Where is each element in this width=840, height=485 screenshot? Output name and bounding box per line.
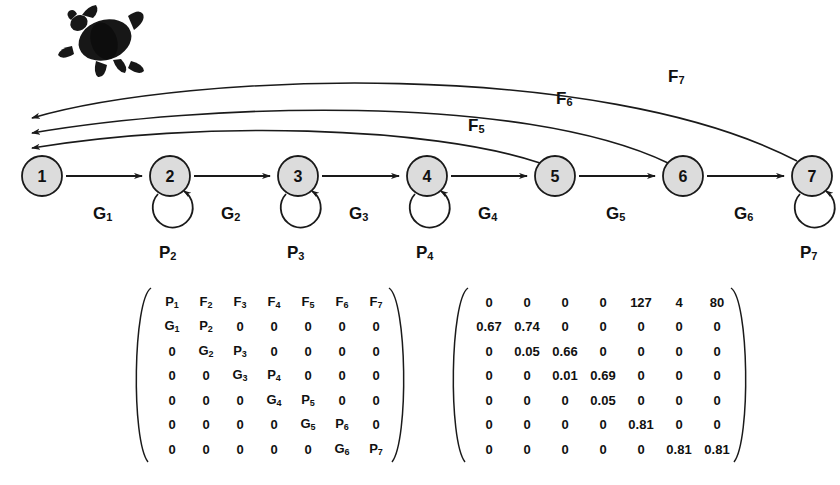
matrix-cell-r7-c5: 0: [622, 443, 660, 456]
matrix-cell-r3-c6: 0: [660, 345, 698, 358]
matrix-cell-r4-c4: 0.69: [584, 369, 622, 382]
matrix-cell-r7-c1: 0: [470, 443, 508, 456]
matrix-cell-r6-c1: 0: [155, 418, 189, 431]
growth-label-g3: G3: [349, 204, 368, 224]
matrix-cell-r1-c7: 80: [698, 296, 736, 309]
matrix-cell-r3-c2: 0.05: [508, 345, 546, 358]
matrix-cell-r6-c4: 0: [257, 418, 291, 431]
matrix-cell-r2-c5: 0: [291, 320, 325, 333]
matrix-cell-r3-c7: 0: [698, 345, 736, 358]
matrix-cell-r1-c1: P1: [155, 295, 189, 310]
matrix-cell-r3-c5: 0: [291, 345, 325, 358]
matrix-cell-r4-c4: P4: [257, 368, 291, 383]
matrix-cell-r2-c7: 0: [698, 320, 736, 333]
growth-label-g1: G1: [93, 204, 112, 224]
matrix-cell-r7-c3: 0: [546, 443, 584, 456]
matrix-cell-r6-c3: 0: [546, 418, 584, 431]
matrix-cell-r2-c6: 0: [660, 320, 698, 333]
growth-label-g6: G6: [734, 204, 753, 224]
matrix-cell-r6-c2: 0: [508, 418, 546, 431]
matrix-cell-r2-c5: 0: [622, 320, 660, 333]
stage-node-label-3: 3: [294, 168, 303, 185]
matrix-cell-r1-c5: F5: [291, 295, 325, 310]
matrix-cell-r7-c7: 0.81: [698, 443, 736, 456]
matrix-cell-r1-c2: 0: [508, 296, 546, 309]
matrix-cell-r5-c4: G4: [257, 393, 291, 408]
matrix-cell-r5-c1: 0: [155, 394, 189, 407]
matrix-cell-r6-c3: 0: [223, 418, 257, 431]
fecundity-label-f6: F6: [556, 89, 573, 109]
matrix-cell-r3-c1: 0: [155, 345, 189, 358]
stage-node-label-4: 4: [423, 168, 432, 185]
matrix-cell-r1-c7: F7: [359, 295, 393, 310]
matrix-cell-r7-c4: 0: [584, 443, 622, 456]
matrix-cell-r6-c5: G5: [291, 417, 325, 432]
matrix-cell-r5-c7: 0: [698, 394, 736, 407]
stage-node-label-5: 5: [551, 168, 560, 185]
matrix-cell-r4-c1: 0: [155, 369, 189, 382]
matrix-cell-r2-c3: 0: [223, 320, 257, 333]
matrix-cell-r5-c4: 0.05: [584, 394, 622, 407]
matrix-cell-r2-c1: 0.67: [470, 320, 508, 333]
matrix-cell-r6-c7: 0: [359, 418, 393, 431]
matrix-cell-r7-c5: 0: [291, 443, 325, 456]
stage-node-label-2: 2: [166, 168, 175, 185]
matrix-cell-r3-c4: 0: [584, 345, 622, 358]
matrix-cell-r5-c6: 0: [660, 394, 698, 407]
matrix-cell-r6-c2: 0: [189, 418, 223, 431]
persistence-label-p2: P2: [159, 243, 176, 263]
matrix-cell-r2-c6: 0: [325, 320, 359, 333]
matrix-cell-r7-c2: 0: [508, 443, 546, 456]
matrix-cell-r7-c6: 0.81: [660, 443, 698, 456]
matrix-cell-r2-c2: 0.74: [508, 320, 546, 333]
symbolic-transition-matrix: P1F2F3F4F5F6F7G1P2000000G2P3000000G3P400…: [155, 290, 393, 462]
stage-node-label-7: 7: [808, 168, 817, 185]
matrix-cell-r3-c1: 0: [470, 345, 508, 358]
life-cycle-diagram-figure: 1 2 3 4 5 6 7 G1 G2 G3 G4 G5 G6 P2 P3 P4…: [0, 0, 840, 485]
matrix-cell-r5-c2: 0: [508, 394, 546, 407]
matrix-cell-r3-c6: 0: [325, 345, 359, 358]
fecundity-label-f5: F5: [468, 116, 485, 136]
matrix-cell-r3-c5: 0: [622, 345, 660, 358]
growth-label-g5: G5: [606, 204, 625, 224]
matrix-cell-r7-c1: 0: [155, 443, 189, 456]
symbolic-matrix-left-paren: [136, 288, 151, 462]
fecundity-arrow-f5: [32, 130, 540, 163]
numeric-matrix-left-paren: [453, 288, 468, 462]
matrix-cell-r5-c5: P5: [291, 393, 325, 408]
matrix-cell-r4-c5: 0: [291, 369, 325, 382]
matrix-cell-r1-c5: 127: [622, 296, 660, 309]
matrix-cell-r3-c3: 0.66: [546, 345, 584, 358]
matrix-cell-r7-c2: 0: [189, 443, 223, 456]
matrix-cell-r7-c7: P7: [359, 442, 393, 457]
matrix-cell-r2-c7: 0: [359, 320, 393, 333]
matrix-cell-r5-c5: 0: [622, 394, 660, 407]
matrix-cell-r5-c3: 0: [223, 394, 257, 407]
sea-turtle-icon: [58, 5, 144, 77]
matrix-cell-r1-c2: F2: [189, 295, 223, 310]
matrix-cell-r6-c6: P6: [325, 417, 359, 432]
matrix-cell-r6-c5: 0.81: [622, 418, 660, 431]
matrix-cell-r4-c7: 0: [359, 369, 393, 382]
matrix-cell-r1-c4: F4: [257, 295, 291, 310]
matrix-cell-r1-c1: 0: [470, 296, 508, 309]
stage-node-label-1: 1: [38, 168, 47, 185]
matrix-cell-r1-c6: 4: [660, 296, 698, 309]
matrix-cell-r4-c2: 0: [189, 369, 223, 382]
matrix-cell-r4-c6: 0: [660, 369, 698, 382]
matrix-cell-r3-c4: 0: [257, 345, 291, 358]
matrix-cell-r4-c5: 0: [622, 369, 660, 382]
matrix-cell-r6-c4: 0: [584, 418, 622, 431]
matrix-cell-r3-c3: P3: [223, 344, 257, 359]
matrix-cell-r5-c1: 0: [470, 394, 508, 407]
fecundity-label-f7: F7: [668, 67, 685, 87]
matrix-cell-r1-c3: F3: [223, 295, 257, 310]
persistence-label-p7: P7: [800, 243, 817, 263]
matrix-cell-r3-c7: 0: [359, 345, 393, 358]
matrix-cell-r4-c2: 0: [508, 369, 546, 382]
matrix-cell-r4-c7: 0: [698, 369, 736, 382]
matrix-cell-r6-c6: 0: [660, 418, 698, 431]
matrix-cell-r5-c3: 0: [546, 394, 584, 407]
matrix-cell-r4-c1: 0: [470, 369, 508, 382]
matrix-cell-r7-c6: G6: [325, 442, 359, 457]
